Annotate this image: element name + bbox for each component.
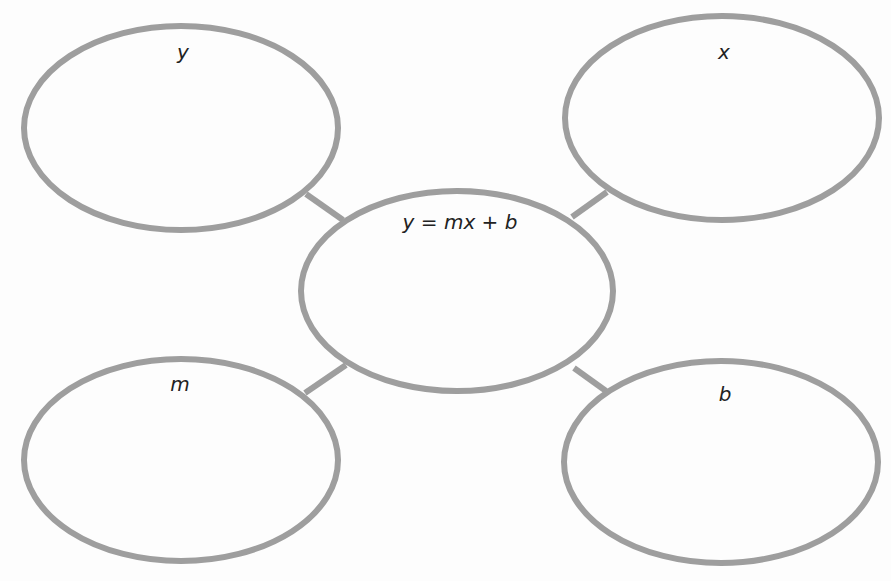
- concept-map-diagram: [0, 0, 891, 581]
- node-label-b: b: [719, 382, 732, 406]
- connector-bottom-left: [305, 365, 346, 393]
- connector-top-right: [572, 192, 607, 217]
- connector-top-left: [306, 194, 343, 220]
- node-label-m: m: [170, 372, 189, 396]
- node-label-y: y: [177, 40, 189, 64]
- connector-bottom-right: [574, 368, 606, 391]
- center-label: y = mx + b: [403, 210, 518, 234]
- node-label-x: x: [718, 40, 730, 64]
